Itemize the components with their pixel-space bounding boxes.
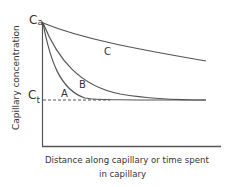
x-axis-label-line2: in capillary	[99, 169, 146, 179]
x-axis-label-line1: Distance along capillary or time spent	[45, 155, 209, 165]
y-axis-label: Capillary concentration	[11, 25, 21, 130]
curve-a-label: A	[61, 88, 68, 99]
curve-c	[43, 23, 206, 61]
capillary-concentration-diagram: Ca Ct C B A Capillary concentration Dist…	[0, 0, 231, 187]
curve-c-label: C	[104, 46, 111, 57]
ca-label: Ca	[29, 13, 43, 27]
ct-label: Ct	[28, 88, 40, 105]
curve-b-label: B	[79, 79, 86, 90]
